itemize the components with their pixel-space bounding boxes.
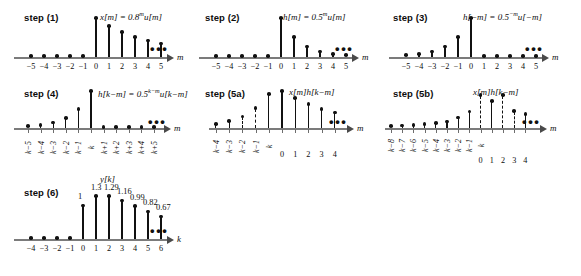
stem-dot xyxy=(456,116,460,120)
stem-line xyxy=(90,92,91,128)
stem-dot xyxy=(29,54,33,58)
stem-dot xyxy=(293,96,297,100)
axis-var-5b: m xyxy=(550,123,557,133)
axis-tick-label: −1 xyxy=(64,244,76,253)
stem-line xyxy=(255,109,256,128)
stem-dot xyxy=(227,119,231,123)
axis-tickmark xyxy=(402,129,403,133)
data-point-label: 0.67 xyxy=(156,203,171,212)
axis-arrow-6 xyxy=(167,236,174,244)
continuation-ellipsis-2: ••• xyxy=(335,42,353,55)
axis-tick-label: k−3 xyxy=(225,135,234,159)
axis-var-1: m xyxy=(177,52,184,62)
axis-tickmark xyxy=(391,129,392,133)
axis-tick-label: k−3 xyxy=(443,134,452,158)
stem-dot xyxy=(253,54,257,58)
data-point-label: 1 xyxy=(78,192,82,201)
stem-dot xyxy=(443,45,447,49)
stem-line xyxy=(281,92,282,128)
panel-step-4: step (4) h[k−m] = 0.5k−mu[k−m] m k−5k−4k… xyxy=(0,82,195,172)
axis-tick-label: k+4 xyxy=(137,136,146,160)
step-label-5b: step (5b) xyxy=(393,88,434,99)
axis-tick-label: k+3 xyxy=(124,136,133,160)
axis-tick-label: k−2 xyxy=(454,134,463,158)
figure-canvas: step (1) x[m] = 0.8mu[m] m −5−4−3−2−1012… xyxy=(0,0,581,276)
stem-line xyxy=(280,19,281,57)
stem-dot xyxy=(241,115,245,119)
stem-line xyxy=(121,201,122,239)
axis-var-6: k xyxy=(177,234,181,244)
stem-line xyxy=(65,119,66,128)
axis-arrow-1 xyxy=(167,54,174,62)
axis-tickmark xyxy=(514,129,515,133)
stem-dot xyxy=(469,16,473,20)
stem-dot xyxy=(254,106,258,110)
stem-dot xyxy=(482,54,486,58)
stem-dot xyxy=(490,99,494,103)
stem-dot xyxy=(318,50,322,54)
axis-tick-label: −3 xyxy=(38,244,50,253)
stem-line xyxy=(108,197,109,239)
stem-dot xyxy=(240,54,244,58)
stem-line xyxy=(321,110,322,128)
axis-tick-label: 0 xyxy=(465,62,477,71)
axis-tickmark xyxy=(447,129,448,133)
axis-tick-label: −4 xyxy=(38,62,50,71)
stem-dot xyxy=(430,50,434,54)
formula-step-4: h[k−m] = 0.5k−mu[k−m] xyxy=(98,87,188,99)
axis-tick-label: −2 xyxy=(439,62,451,71)
axis-tick-label: −3 xyxy=(236,62,248,71)
axis-tick-label: 1 xyxy=(478,62,490,71)
data-point-label: 1.3 xyxy=(91,183,101,192)
stem-dot xyxy=(508,54,512,58)
stem-dot xyxy=(29,236,33,240)
stem-dot xyxy=(292,35,296,39)
axis-tickmark xyxy=(129,129,130,133)
axis-tickmark xyxy=(66,129,67,133)
axis-tick-label: 3 xyxy=(116,244,128,253)
axis-tickmark xyxy=(116,129,117,133)
axis-tickmark xyxy=(282,129,283,133)
stem-dot xyxy=(227,54,231,58)
stem-dot xyxy=(146,210,150,214)
stem-dot xyxy=(423,122,427,126)
step-label-1: step (1) xyxy=(24,12,59,23)
axis-tick-label: 1 xyxy=(90,244,102,253)
stem-dot xyxy=(404,53,408,57)
stem-dot xyxy=(89,89,93,93)
step-label-4: step (4) xyxy=(24,88,59,99)
stem-dot xyxy=(81,54,85,58)
axis-tickmark xyxy=(154,129,155,133)
stem-dot xyxy=(133,204,137,208)
stem-line xyxy=(469,112,470,128)
step-label-5a: step (5a) xyxy=(205,88,245,99)
stem-line xyxy=(457,38,458,57)
axis-tickmark xyxy=(469,129,470,133)
stem-line xyxy=(95,197,96,239)
formula-step-1: x[m] = 0.8mu[m] xyxy=(100,10,162,22)
stem-line xyxy=(293,38,294,57)
stem-dot xyxy=(400,124,404,128)
axis-tickmark xyxy=(242,129,243,133)
axis-tick-label: k+1 xyxy=(99,136,108,160)
axis-arrow-3 xyxy=(542,54,549,62)
axis-tickmark xyxy=(269,129,270,133)
stem-dot xyxy=(94,16,98,20)
axis-tickmark xyxy=(436,129,437,133)
step-label-6: step (6) xyxy=(24,187,59,198)
stem-line xyxy=(308,105,309,128)
axis-var-5a: m xyxy=(357,123,364,133)
panel-step-1: step (1) x[m] = 0.8mu[m] m −5−4−3−2−1012… xyxy=(0,0,195,85)
axis-tick-label: k−2 xyxy=(238,135,247,159)
stem-dot xyxy=(77,107,81,111)
stem-dot xyxy=(512,109,516,113)
stem-dot xyxy=(68,54,72,58)
axis-tick-label: 4 xyxy=(142,62,154,71)
stem-dot xyxy=(445,120,449,124)
stem-line xyxy=(147,212,148,239)
stem-dot xyxy=(468,110,472,114)
axis-tickmark xyxy=(78,129,79,133)
stem-dot xyxy=(107,24,111,28)
axis-tick-label: k−8 xyxy=(387,134,396,158)
stem-line xyxy=(147,41,148,57)
